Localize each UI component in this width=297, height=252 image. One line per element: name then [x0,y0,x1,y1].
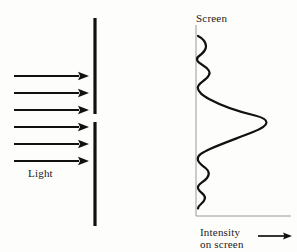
arrowhead-icon [78,89,89,97]
arrowhead-icon [78,106,89,114]
intensity-curve-group [197,36,266,209]
intensity-on-screen-label: Intensity on screen [200,226,244,250]
diagram-canvas [0,0,297,252]
light-ray-6 [14,157,89,165]
light-ray-1 [14,72,89,80]
light-ray-2 [14,89,89,97]
arrowhead-icon [78,72,89,80]
single-slit-diffraction-figure: Screen Light Intensity on screen [0,0,297,252]
light-ray-group [14,72,89,165]
light-ray-5 [14,140,89,148]
graph-axes [196,25,291,216]
light-ray-4 [14,123,89,131]
light-ray-3 [14,106,89,114]
arrowhead-icon [78,123,89,131]
arrowhead-icon [78,157,89,165]
diffraction-intensity-curve [197,36,266,209]
screen-label: Screen [196,12,227,24]
intensity-direction-arrow [258,233,292,240]
arrowhead-icon [78,140,89,148]
light-label: Light [28,167,53,179]
